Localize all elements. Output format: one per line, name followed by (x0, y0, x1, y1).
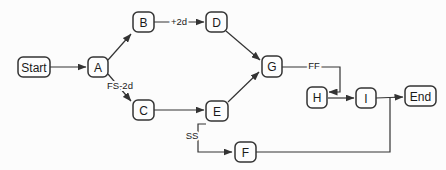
diagram-canvas: StartABDCEGHIEndF FS-2d+2dFFSS (0, 0, 446, 170)
node-e: E (206, 101, 228, 121)
edge-labels-layer: FS-2d+2dFFSS (107, 16, 320, 141)
edge-a-b (108, 34, 131, 60)
node-label-d: D (212, 16, 221, 30)
node-end: End (405, 86, 436, 106)
node-label-h: H (313, 91, 322, 105)
node-h: H (307, 87, 327, 108)
edge-label-e-f: SS (186, 130, 199, 141)
node-d: D (206, 12, 227, 32)
edges-layer (50, 22, 403, 152)
node-label-start: Start (21, 61, 47, 75)
node-g: G (262, 56, 282, 77)
edge-label-g-h: FF (308, 60, 320, 71)
nodes-layer: StartABDCEGHIEndF (18, 12, 436, 162)
edge-i-end (376, 97, 403, 98)
node-c: C (133, 100, 154, 120)
node-a: A (88, 57, 108, 77)
node-f: F (235, 142, 256, 162)
edge-label-b-d: +2d (171, 16, 187, 27)
node-label-i: I (364, 92, 367, 106)
edge-e-f (198, 124, 232, 152)
node-b: B (133, 12, 154, 32)
edge-e-g (228, 72, 259, 102)
node-label-e: E (213, 105, 221, 119)
node-label-f: F (242, 146, 249, 160)
node-label-c: C (139, 104, 148, 118)
node-label-b: B (139, 16, 147, 30)
node-label-g: G (267, 60, 276, 74)
node-label-a: A (94, 61, 102, 75)
edge-label-a-c: FS-2d (107, 80, 133, 91)
node-label-end: End (410, 90, 431, 104)
node-i: I (356, 88, 376, 108)
edge-d-g (226, 31, 260, 60)
node-start: Start (18, 57, 50, 77)
